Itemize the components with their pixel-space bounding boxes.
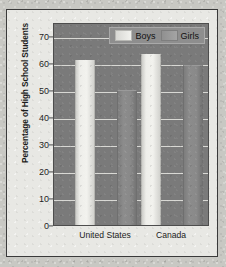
y-tick-label: 10 xyxy=(23,194,49,204)
bar-united-states-girls xyxy=(117,90,137,225)
y-tick-label: 0 xyxy=(23,221,49,231)
y-tick-mark xyxy=(49,144,53,145)
legend-swatch-girls xyxy=(161,30,178,41)
chart-legend: Boys Girls xyxy=(109,27,205,44)
y-tick-mark xyxy=(49,171,53,172)
plot-area: Boys Girls xyxy=(53,23,209,226)
legend-swatch-boys xyxy=(115,30,132,41)
y-tick-label: 70 xyxy=(23,32,49,42)
y-tick-mark xyxy=(49,117,53,118)
bar-canada-boys xyxy=(141,54,161,225)
y-tick-mark xyxy=(49,36,53,37)
y-tick-mark xyxy=(49,63,53,64)
y-tick-mark xyxy=(49,198,53,199)
y-tick-label: 20 xyxy=(23,167,49,177)
chart-figure: Percentage of High School Students Boys … xyxy=(6,9,218,257)
y-tick-label: 60 xyxy=(23,59,49,69)
plot-container: Boys Girls 010203040506070 United States… xyxy=(53,23,209,233)
x-tick-label: Canada xyxy=(126,230,216,240)
y-tick-label: 50 xyxy=(23,86,49,96)
y-tick-mark xyxy=(49,225,53,226)
legend-item-boys: Boys xyxy=(115,30,155,41)
bar-united-states-boys xyxy=(75,60,95,225)
y-tick-label: 40 xyxy=(23,113,49,123)
legend-label-boys: Boys xyxy=(135,31,155,41)
legend-label-girls: Girls xyxy=(181,31,200,41)
y-tick-mark xyxy=(49,90,53,91)
bar-canada-girls xyxy=(183,65,203,225)
legend-item-girls: Girls xyxy=(161,30,200,41)
y-tick-label: 30 xyxy=(23,140,49,150)
